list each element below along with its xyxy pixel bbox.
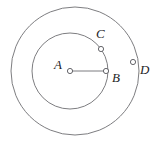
point-marker-b xyxy=(103,68,108,73)
point-label-c: C xyxy=(96,26,105,41)
point-label-d: D xyxy=(139,62,150,77)
geometry-figure: A B C D xyxy=(0,0,160,147)
point-marker-d xyxy=(130,59,135,64)
point-label-a: A xyxy=(53,57,62,72)
point-marker-a xyxy=(67,68,72,73)
point-label-b: B xyxy=(112,70,120,85)
point-marker-c xyxy=(98,46,103,51)
figure-canvas: A B C D xyxy=(0,0,160,147)
